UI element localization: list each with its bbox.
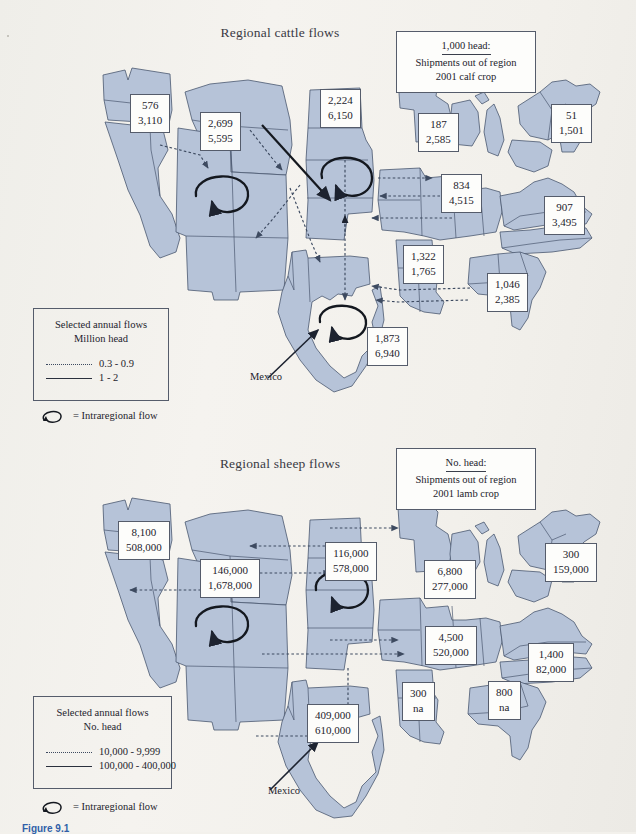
cattle-label-upper-midwest: 187 2,585 xyxy=(418,113,459,152)
solid-line-swatch-icon xyxy=(46,762,92,770)
cattle-note-box: 1,000 head: Shipments out of region 2001… xyxy=(396,31,536,93)
cattle-note-line3: 2001 calf crop xyxy=(407,70,525,84)
value-primary: 907 xyxy=(552,200,577,215)
sheep-label-southern-plains: 409,000 610,000 xyxy=(307,704,359,743)
value-secondary: 508,000 xyxy=(126,540,162,555)
legend-title-line1: Selected annual flows xyxy=(34,318,168,332)
sheep-map-panel: Regional sheep flows xyxy=(0,418,636,818)
sheep-note-line3: 2001 lamb crop xyxy=(407,487,525,501)
value-secondary: 4,515 xyxy=(449,193,474,208)
cattle-label-southeast: 1,046 2,385 xyxy=(487,273,528,312)
value-secondary: 3,110 xyxy=(138,113,162,128)
legend-row-solid: 100,000 - 400,000 xyxy=(46,759,161,773)
sheep-label-northern-plains: 116,000 578,000 xyxy=(325,542,377,581)
value-primary: 800 xyxy=(496,685,513,700)
value-secondary: 82,000 xyxy=(536,662,566,677)
value-secondary: 6,940 xyxy=(375,346,400,361)
dotted-line-swatch-icon xyxy=(46,748,92,756)
value-secondary: 2,585 xyxy=(426,132,451,147)
cattle-label-corn-belt: 834 4,515 xyxy=(441,174,482,213)
sheep-label-corn-belt: 4,500 520,000 xyxy=(425,626,477,665)
value-primary: 834 xyxy=(449,178,474,193)
legend-row-label: 100,000 - 400,000 xyxy=(99,759,176,773)
intraregional-loop-icon xyxy=(38,796,66,816)
value-secondary: 159,000 xyxy=(553,562,589,577)
sheep-label-appalachia: 1,400 82,000 xyxy=(528,643,574,682)
cattle-label-northern-plains: 2,224 6,150 xyxy=(320,89,361,128)
legend-row-dotted: 10,000 - 9,999 xyxy=(46,745,161,759)
sheep-legend: Selected annual flows No. head 10,000 - … xyxy=(33,696,172,789)
value-primary: 51 xyxy=(559,108,584,123)
cattle-note-line2: Shipments out of region xyxy=(407,56,525,70)
value-secondary: 6,150 xyxy=(328,108,353,123)
sheep-label-northern-rockies: 146,000 1,678,000 xyxy=(200,559,260,598)
value-secondary: 2,385 xyxy=(495,292,520,307)
sheep-mexico-label: Mexico xyxy=(268,785,300,796)
value-primary: 6,800 xyxy=(432,564,468,579)
value-primary: 1,873 xyxy=(375,331,400,346)
sheep-intraregional-key: = Intraregional flow xyxy=(38,796,158,816)
cattle-label-southern-plains: 1,873 6,940 xyxy=(367,327,408,366)
legend-title-line2: Million head xyxy=(34,332,168,346)
value-primary: 2,224 xyxy=(328,93,353,108)
value-secondary: 1,765 xyxy=(411,264,436,279)
cattle-label-pacific-northwest: 576 3,110 xyxy=(130,94,170,133)
value-primary: 2,699 xyxy=(208,116,233,131)
legend-row-label: 0.3 - 0.9 xyxy=(99,357,134,371)
value-primary: 1,046 xyxy=(495,277,520,292)
legend-title-line1: Selected annual flows xyxy=(34,706,171,720)
sheep-label-northeast: 300 159,000 xyxy=(545,543,597,582)
legend-row-dotted: 0.3 - 0.9 xyxy=(46,357,158,371)
cattle-map-panel: Regional cattle flows xyxy=(0,0,636,420)
sheep-note-head: No. head: xyxy=(446,456,487,472)
cattle-label-northeast: 51 1,501 xyxy=(551,104,592,143)
value-secondary: 578,000 xyxy=(333,561,369,576)
value-secondary: 1,678,000 xyxy=(208,578,252,593)
sheep-label-upper-midwest: 6,800 277,000 xyxy=(424,560,476,599)
cattle-mexico-label: Mexico xyxy=(250,371,282,382)
sheep-label-pacific-northwest: 8,100 508,000 xyxy=(118,521,170,560)
cattle-label-appalachia: 907 3,495 xyxy=(544,196,585,235)
cattle-legend: Selected annual flows Million head 0.3 -… xyxy=(33,308,169,401)
legend-row-solid: 1 - 2 xyxy=(46,371,158,385)
cattle-label-northern-rockies: 2,699 5,595 xyxy=(200,112,241,151)
value-primary: 1,322 xyxy=(411,249,436,264)
sheep-label-southeast: 800 na xyxy=(488,681,521,720)
value-primary: 8,100 xyxy=(126,525,162,540)
value-primary: 409,000 xyxy=(315,708,351,723)
value-primary: 1,400 xyxy=(536,647,566,662)
value-primary: 300 xyxy=(410,686,427,701)
value-secondary: 610,000 xyxy=(315,723,351,738)
value-secondary: na xyxy=(410,701,427,716)
sheep-legend-title: Selected annual flows No. head xyxy=(34,697,171,734)
cattle-note-head: 1,000 head: xyxy=(442,39,491,55)
value-primary: 116,000 xyxy=(333,546,369,561)
value-secondary: 1,501 xyxy=(559,123,584,138)
value-primary: 187 xyxy=(426,117,451,132)
value-primary: 4,500 xyxy=(433,630,469,645)
cattle-legend-title: Selected annual flows Million head xyxy=(34,309,168,346)
value-secondary: 3,495 xyxy=(552,215,577,230)
figure-caption: Figure 9.1 xyxy=(22,823,69,834)
legend-row-label: 10,000 - 9,999 xyxy=(99,745,160,759)
value-primary: 576 xyxy=(138,98,162,113)
dotted-line-swatch-icon xyxy=(46,360,92,368)
solid-line-swatch-icon xyxy=(46,374,92,382)
value-primary: 146,000 xyxy=(208,563,252,578)
legend-row-label: 1 - 2 xyxy=(99,371,118,385)
sheep-legend-rows: 10,000 - 9,999 100,000 - 400,000 xyxy=(34,745,171,773)
value-secondary: 520,000 xyxy=(433,645,469,660)
value-primary: 300 xyxy=(553,547,589,562)
sheep-note-box: No. head: Shipments out of region 2001 l… xyxy=(396,448,536,510)
value-secondary: 277,000 xyxy=(432,579,468,594)
sheep-label-delta-states: 300 na xyxy=(402,682,435,721)
cattle-label-delta-states: 1,322 1,765 xyxy=(403,245,444,284)
cattle-legend-rows: 0.3 - 0.9 1 - 2 xyxy=(34,357,168,385)
value-secondary: 5,595 xyxy=(208,131,233,146)
intraregional-key-label: = Intraregional flow xyxy=(73,801,158,812)
value-secondary: na xyxy=(496,700,513,715)
legend-title-line2: No. head xyxy=(34,720,171,734)
sheep-note-line2: Shipments out of region xyxy=(407,473,525,487)
